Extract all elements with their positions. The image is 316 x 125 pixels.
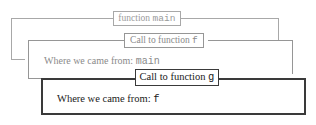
legend-identifier: f (192, 35, 198, 46)
frame-g-right-border (304, 78, 306, 115)
frame-f-bottom-stub (28, 78, 42, 79)
legend-keyword: Call to function (140, 71, 206, 82)
frame-f-body-text: Where we came from: main (44, 56, 160, 67)
frame-main-top-border-left (11, 18, 113, 19)
frame-f-body-value: main (136, 56, 160, 67)
frame-main-left-border (11, 18, 12, 59)
frame-g-body-text: Where we came from: f (57, 94, 160, 105)
frame-f-left-border (28, 40, 29, 78)
frame-legend-call-function-g: Call to function g (135, 69, 219, 86)
frame-f-body-label: Where we came from: (44, 55, 133, 66)
frame-g-top-border-right (218, 78, 306, 80)
frame-f-top-border-right (208, 40, 293, 41)
diagram-canvas: function main Call to function f Where w… (0, 0, 316, 125)
frame-f-top-border-left (28, 40, 126, 41)
frame-legend-function-main: function main (113, 11, 181, 26)
frame-g-top-border-left (41, 78, 137, 80)
legend-identifier: main (152, 13, 175, 24)
legend-keyword: function (118, 13, 150, 23)
frame-legend-call-function-f: Call to function f (124, 33, 204, 48)
frame-g-body-label: Where we came from: (57, 93, 151, 104)
frame-main-top-border-right (181, 18, 279, 19)
frame-main-right-border (278, 18, 279, 40)
frame-g-bottom-border (41, 113, 306, 115)
frame-legend-function-main-text: function main (118, 14, 175, 24)
legend-identifier: g (208, 71, 214, 83)
frame-g-left-border (41, 78, 43, 115)
frame-main-bottom-stub (11, 59, 25, 60)
frame-g-body-value: f (153, 93, 159, 105)
frame-legend-call-function-g-text: Call to function g (140, 72, 215, 83)
frame-legend-call-function-f-text: Call to function f (130, 36, 198, 46)
legend-keyword: Call to function (130, 35, 190, 45)
frame-f-right-border (292, 40, 293, 74)
